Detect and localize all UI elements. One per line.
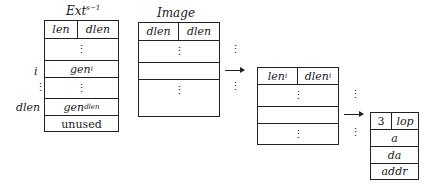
record-table: 3 lop a da addr bbox=[370, 112, 419, 180]
vertical-ellipsis-icon: ⋮ bbox=[174, 84, 185, 97]
entry-header-row: leni dleni bbox=[258, 68, 338, 84]
connector-dots-4: ⋮ bbox=[350, 126, 361, 139]
ext-row-gen-i: geni bbox=[45, 60, 118, 77]
vertical-ellipsis-icon: ⋮ bbox=[76, 82, 87, 95]
arrow-icon bbox=[344, 114, 363, 115]
ext-header-dlen: dlen bbox=[78, 21, 118, 38]
entry-row-ellipsis-2: ⋮ bbox=[258, 123, 338, 144]
image-row-ellipsis-1: ⋮ bbox=[139, 40, 219, 62]
record-row-addr: addr bbox=[371, 163, 418, 179]
entry-header-dlen: dleni bbox=[298, 68, 338, 84]
image-row-ellipsis-2: ⋮ bbox=[139, 79, 219, 116]
ext-row-ellipsis-2: ⋮ bbox=[45, 77, 118, 98]
ext-row-gen-dlen: gendlen bbox=[45, 98, 118, 115]
ext-row-ellipsis-1: ⋮ bbox=[45, 38, 118, 60]
vertical-ellipsis-icon: ⋮ bbox=[76, 43, 87, 56]
image-table: dlen dlen ⋮ ⋮ bbox=[138, 22, 220, 117]
record-row-da: da bbox=[371, 146, 418, 163]
record-header-lop: lop bbox=[392, 113, 418, 129]
ext-side-label-dlen: dlen bbox=[16, 101, 40, 114]
image-table-title: Image bbox=[157, 6, 195, 20]
ext-side-label-i: i bbox=[34, 65, 38, 78]
record-header-3: 3 bbox=[371, 113, 392, 129]
vertical-ellipsis-icon: ⋮ bbox=[293, 128, 304, 141]
vertical-ellipsis-icon: ⋮ bbox=[293, 89, 304, 102]
record-row-a: a bbox=[371, 129, 418, 146]
image-header-dlen-1: dlen bbox=[139, 23, 179, 40]
connector-dots-3: ⋮ bbox=[350, 88, 361, 101]
connector-dots-2: ⋮ bbox=[230, 80, 241, 93]
entry-row-ellipsis-1: ⋮ bbox=[258, 84, 338, 106]
entry-header-len: leni bbox=[258, 68, 298, 84]
entry-row-blank bbox=[258, 106, 338, 123]
entry-table: leni dleni ⋮ ⋮ bbox=[257, 67, 339, 145]
image-row-blank bbox=[139, 62, 219, 79]
ext-header-len: len bbox=[45, 21, 78, 38]
ext-row-unused: unused bbox=[45, 115, 118, 132]
vertical-ellipsis-icon: ⋮ bbox=[174, 45, 185, 58]
ext-table-title: Exts−1 bbox=[66, 4, 100, 18]
ext-table: len dlen ⋮ geni ⋮ gendlen unused bbox=[44, 20, 119, 132]
connector-dots-1: ⋮ bbox=[230, 43, 241, 56]
record-header-row: 3 lop bbox=[371, 113, 418, 129]
image-header-dlen-2: dlen bbox=[179, 23, 219, 40]
image-header-row: dlen dlen bbox=[139, 23, 219, 40]
ext-header-row: len dlen bbox=[45, 21, 118, 38]
ext-side-label-ellipsis: ⋮ bbox=[35, 81, 46, 94]
arrow-icon bbox=[225, 70, 244, 71]
